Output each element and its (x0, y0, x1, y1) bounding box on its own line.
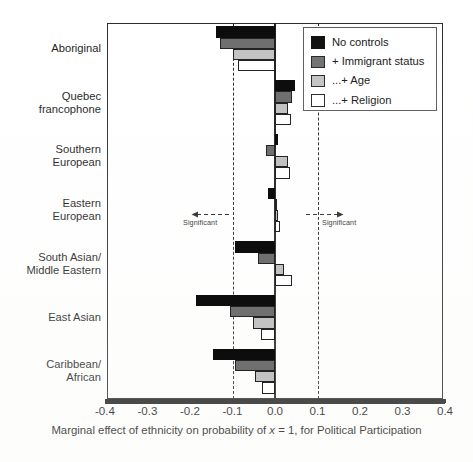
bar (275, 114, 291, 125)
significant-label-left: Significant (183, 218, 217, 227)
x-axis-tick-label: 0.0 (253, 404, 297, 417)
y-axis-label: Eastern European (0, 197, 101, 223)
bar (275, 91, 292, 102)
bar (216, 26, 275, 37)
x-axis-tick-label: -0.1 (211, 404, 255, 417)
bar (275, 264, 284, 275)
x-axis-tick-label: 0.3 (381, 404, 425, 417)
x-axis-tick (403, 399, 404, 403)
x-axis-tick (275, 399, 276, 403)
x-axis-tick-label: -0.4 (83, 404, 127, 417)
legend-swatch-icon (311, 75, 325, 87)
y-axis-category-labels: AboriginalQuebec francophoneSouthern Eur… (0, 23, 101, 399)
x-axis-tick-label: 0.2 (338, 404, 382, 417)
bar (253, 317, 275, 328)
bar (266, 145, 275, 156)
x-axis-tick (445, 399, 446, 403)
bar (275, 210, 278, 221)
x-axis-tick (318, 399, 319, 403)
x-axis-tick-label: -0.2 (168, 404, 212, 417)
bar (275, 134, 278, 145)
legend-swatch-icon (311, 56, 325, 68)
bar (275, 80, 295, 91)
bar (238, 60, 275, 71)
bar (255, 371, 275, 382)
bar (261, 329, 275, 340)
legend-item-label: ...+ Age (332, 73, 370, 88)
bar (275, 221, 280, 232)
legend-item-label: No controls (332, 35, 389, 50)
x-axis-title-part2: = 1, for Political Participation (275, 424, 422, 436)
bar (275, 199, 277, 210)
legend-item: ...+ Religion (311, 91, 436, 110)
x-axis-tick (148, 399, 149, 403)
x-axis-title-part1: Marginal effect of ethnicity on probabil… (51, 424, 269, 436)
bar (235, 360, 275, 371)
bar (275, 275, 292, 286)
bar (235, 241, 275, 252)
chart-legend: No controls+ Immigrant status...+ Age...… (303, 27, 437, 111)
x-axis-tick (233, 399, 234, 403)
x-axis-tick-label: -0.3 (126, 404, 170, 417)
bar (262, 382, 275, 393)
y-axis-label: South Asian/ Middle Eastern (0, 251, 101, 277)
y-axis-label: Caribbean/ African (0, 358, 101, 384)
significance-threshold-line-negative (233, 23, 234, 399)
x-axis-tick (190, 399, 191, 403)
legend-item: + Immigrant status (311, 52, 436, 71)
bar (220, 38, 275, 49)
y-axis-label: Aboriginal (0, 42, 101, 55)
chart-figure: AboriginalQuebec francophoneSouthern Eur… (0, 0, 473, 462)
bar (258, 253, 275, 264)
legend-item: ...+ Age (311, 72, 436, 91)
bar (230, 306, 275, 317)
legend-item-label: + Immigrant status (332, 54, 424, 69)
y-axis-label: East Asian (0, 311, 101, 324)
legend-item: No controls (311, 33, 436, 52)
x-axis-tick-label: 0.1 (296, 404, 340, 417)
x-axis-title: Marginal effect of ethnicity on probabil… (0, 424, 473, 436)
x-axis-tick-label: 0.4 (423, 404, 467, 417)
bar (196, 295, 275, 306)
significant-label-right: Significant (322, 218, 356, 227)
y-axis-label: Southern European (0, 143, 101, 169)
bar (275, 156, 288, 167)
legend-item-label: ...+ Religion (332, 93, 391, 108)
legend-swatch-icon (311, 36, 325, 48)
bar (268, 188, 275, 199)
x-axis-tick (105, 399, 106, 403)
y-axis-label: Quebec francophone (0, 90, 101, 116)
bar (233, 49, 275, 60)
bar (213, 349, 275, 360)
bar (275, 103, 288, 114)
bar (275, 167, 290, 178)
legend-swatch-icon (311, 94, 325, 106)
x-axis-tick (360, 399, 361, 403)
